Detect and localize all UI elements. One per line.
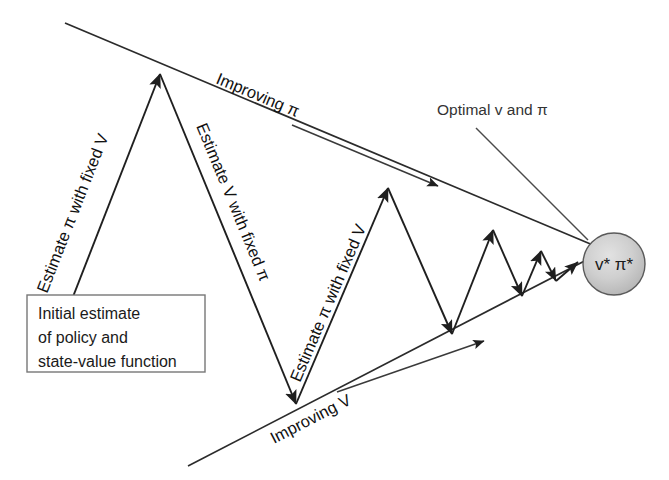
label-estimate-v-fixed-pi: Estimate V with fixed π (193, 120, 274, 283)
label-estimate-pi-fixed-v-2: Estimate π with fixed V (286, 222, 369, 385)
label-estimate-pi-fixed-v-1: Estimate π with fixed V (33, 131, 111, 295)
initial-estimate-line-3: state-value function (38, 353, 177, 370)
improving-v-arrow (337, 341, 484, 392)
lower-boundary-line (188, 253, 600, 466)
convergence-node-label: v* π* (595, 255, 634, 274)
gpi-diagram: v* π* Optimal v and π Improving π Improv… (0, 0, 669, 480)
zigzag-segment-4 (388, 188, 452, 334)
initial-estimate-line-2: of policy and (38, 329, 128, 346)
upper-boundary-line (65, 23, 600, 248)
zigzag-segment-9 (556, 262, 578, 281)
initial-estimate-line-1: Initial estimate (38, 305, 140, 322)
optimal-callout-label: Optimal v and π (437, 101, 548, 118)
zigzag-segment-3 (296, 188, 388, 404)
optimal-callout-leader-line (476, 128, 588, 240)
diagram-canvas: v* π* Optimal v and π Improving π Improv… (0, 0, 669, 480)
label-improving-pi: Improving π (214, 69, 302, 120)
zigzag-segment-6 (493, 230, 522, 296)
zigzag-segment-8 (541, 251, 556, 281)
improving-pi-arrow (292, 125, 438, 186)
